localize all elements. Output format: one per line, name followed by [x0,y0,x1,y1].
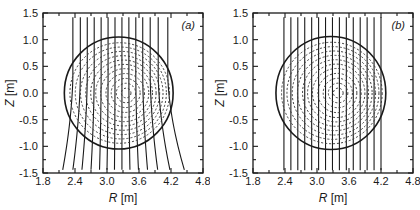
x-axis-title: R [m] [109,191,138,205]
flux-surface-contour [121,88,131,98]
y-tick-label: 0.0 [23,87,38,99]
field-line [129,17,130,170]
x-tick-label: 4.8 [405,175,420,187]
y-axis-title: Z [m] [213,79,227,107]
y-axis-title: Z [m] [3,79,17,107]
y-tick-label: 1.0 [23,34,38,46]
x-tick-label: 4.8 [195,175,210,187]
panel-tag: (a) [182,19,196,31]
panel-b: 1.82.43.03.64.24.8-1.5-1.0-0.50.00.51.01… [210,0,420,210]
y-tick-label: -1.5 [19,167,38,179]
y-tick-label: 1.5 [23,7,38,19]
y-axis-unit: [m] [213,79,227,99]
y-tick-label: 0.0 [233,87,248,99]
flux-surface-contour [116,83,135,102]
y-tick-label: 1.0 [233,34,248,46]
field-line [114,17,115,170]
x-tick-label: 3.6 [131,175,146,187]
x-tick-label: 4.2 [373,175,388,187]
field-line [91,17,94,170]
panel-b-plot: 1.82.43.03.64.24.8-1.5-1.0-0.50.00.51.01… [210,0,420,210]
field-line [107,17,108,170]
field-line [143,17,148,170]
x-tick-label: 2.4 [277,175,292,187]
x-tick-label: 3.6 [341,175,356,187]
y-tick-label: 1.5 [233,7,248,19]
panel-a: 1.82.43.03.64.24.8-1.5-1.0-0.50.00.51.01… [0,0,210,210]
plot-area [276,17,386,170]
x-tick-label: 2.4 [67,175,82,187]
x-axis-unit: [m] [327,191,347,205]
x-tick-label: 3.0 [99,175,114,187]
flux-surface-contour [333,88,343,98]
y-tick-label: 0.5 [23,60,38,72]
x-axis-variable: R [109,191,118,205]
flux-surface-contour [318,73,357,112]
flux-surface-contour [328,83,347,103]
field-line [73,17,80,170]
x-axis-variable: R [319,191,328,205]
y-tick-label: -1.0 [19,140,38,152]
plot-area [63,17,185,170]
y-tick-label: 0.5 [233,60,248,72]
y-tick-label: -1.5 [229,167,248,179]
plasma-boundary [276,36,386,149]
flux-surface-contour [308,64,365,122]
x-axis-unit: [m] [117,191,137,205]
x-axis-title: R [m] [319,191,348,205]
x-tick-label: 3.0 [309,175,324,187]
x-tick-label: 4.2 [163,175,178,187]
panel-a-plot: 1.82.43.03.64.24.8-1.5-1.0-0.50.00.51.01… [0,0,210,210]
figure-container: 1.82.43.03.64.24.8-1.5-1.0-0.50.00.51.01… [0,0,420,210]
field-line [168,17,185,170]
flux-surface-contour [312,68,361,117]
y-tick-label: -1.0 [229,140,248,152]
y-tick-label: -0.5 [19,114,38,126]
field-line [82,17,87,170]
y-axis-unit: [m] [3,79,17,99]
field-lines-group [284,17,381,170]
panel-tag: (b) [392,19,406,31]
flux-surface-contour [106,74,145,113]
y-tick-label: -0.5 [229,114,248,126]
